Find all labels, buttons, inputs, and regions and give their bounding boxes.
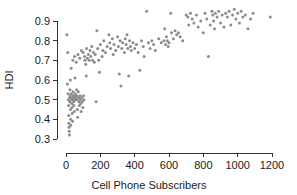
data-point xyxy=(222,25,225,28)
data-point xyxy=(216,16,219,19)
y-tick-label: 0.9 xyxy=(35,15,50,27)
data-point xyxy=(71,59,74,62)
data-point xyxy=(116,35,119,38)
data-point xyxy=(128,39,131,42)
data-point xyxy=(77,53,80,56)
data-point xyxy=(123,51,126,54)
x-tick-label: 1200 xyxy=(260,159,284,171)
data-point xyxy=(138,69,141,72)
data-point xyxy=(120,47,123,50)
data-point xyxy=(162,39,165,42)
data-point xyxy=(137,51,140,54)
data-point xyxy=(118,73,121,76)
data-point xyxy=(169,12,172,15)
data-point xyxy=(154,49,157,52)
data-point xyxy=(114,49,117,52)
data-point xyxy=(121,41,124,44)
data-point xyxy=(236,12,239,15)
data-point xyxy=(131,41,134,44)
y-axis-ticks xyxy=(53,21,57,139)
x-tick-label: 600 xyxy=(160,159,178,171)
data-point xyxy=(76,116,79,119)
data-point xyxy=(172,37,175,40)
data-point xyxy=(95,29,98,32)
data-point xyxy=(83,98,86,101)
data-point xyxy=(269,16,272,19)
data-point xyxy=(119,84,122,87)
data-point xyxy=(68,88,71,91)
data-point xyxy=(140,39,143,42)
data-point xyxy=(94,53,97,56)
data-point xyxy=(174,29,177,32)
data-point xyxy=(68,130,71,133)
data-point xyxy=(160,41,163,44)
scatter-plot-figure: 0.30.40.50.60.70.80.9 020040060080010001… xyxy=(0,0,297,195)
data-point xyxy=(233,8,236,11)
data-point xyxy=(207,55,210,58)
x-tick-label: 0 xyxy=(63,159,69,171)
data-point xyxy=(101,55,104,58)
data-point xyxy=(211,14,214,17)
data-point xyxy=(189,12,192,15)
data-point xyxy=(142,45,145,48)
data-point xyxy=(252,12,255,15)
y-tick-label: 0.6 xyxy=(35,74,50,86)
data-point xyxy=(109,47,112,50)
data-point xyxy=(221,14,224,17)
data-point xyxy=(88,59,91,62)
x-tick-label: 200 xyxy=(91,159,109,171)
data-point xyxy=(197,25,200,28)
data-point xyxy=(126,47,129,50)
y-tick-label: 0.4 xyxy=(35,113,50,125)
data-point xyxy=(83,55,86,58)
data-point xyxy=(163,27,166,30)
data-point xyxy=(202,31,205,34)
data-point xyxy=(84,63,87,66)
data-point xyxy=(191,18,194,21)
data-point xyxy=(181,39,184,42)
data-point xyxy=(186,16,189,19)
data-point xyxy=(226,16,229,19)
x-axis-title: Cell Phone Subscribers xyxy=(92,179,207,191)
data-point xyxy=(83,59,86,62)
data-point xyxy=(66,51,69,54)
data-point xyxy=(241,16,244,19)
data-point xyxy=(229,23,232,26)
data-point xyxy=(82,51,85,54)
data-point xyxy=(133,47,136,50)
data-point xyxy=(228,10,231,13)
data-point xyxy=(69,124,72,127)
data-point xyxy=(143,55,146,58)
x-axis-group: 020040060080010001200 xyxy=(63,153,284,171)
data-point xyxy=(219,21,222,24)
data-point xyxy=(112,53,115,56)
data-point xyxy=(113,43,116,46)
data-point xyxy=(238,21,241,24)
data-point xyxy=(104,51,107,54)
data-point xyxy=(85,75,88,78)
data-point xyxy=(108,41,111,44)
data-point xyxy=(99,43,102,46)
chart-canvas: 0.30.40.50.60.70.80.9 020040060080010001… xyxy=(0,0,297,195)
data-point xyxy=(124,37,127,40)
data-point xyxy=(71,120,74,123)
data-points-layer xyxy=(65,8,271,137)
data-point xyxy=(210,10,213,13)
y-tick-label: 0.5 xyxy=(35,94,50,106)
data-point xyxy=(80,110,83,113)
data-point xyxy=(199,20,202,23)
data-point xyxy=(149,47,152,50)
y-axis-group: 0.30.40.50.60.70.80.9 xyxy=(35,15,57,145)
data-point xyxy=(217,10,220,13)
data-point xyxy=(204,12,207,15)
data-point xyxy=(244,14,247,17)
data-point xyxy=(73,110,76,113)
data-point xyxy=(167,45,170,48)
data-point xyxy=(107,33,110,36)
data-point xyxy=(67,114,70,117)
data-point xyxy=(77,90,80,93)
data-point xyxy=(187,23,190,26)
data-point xyxy=(89,55,92,58)
data-point xyxy=(81,106,84,109)
data-point xyxy=(73,77,76,80)
